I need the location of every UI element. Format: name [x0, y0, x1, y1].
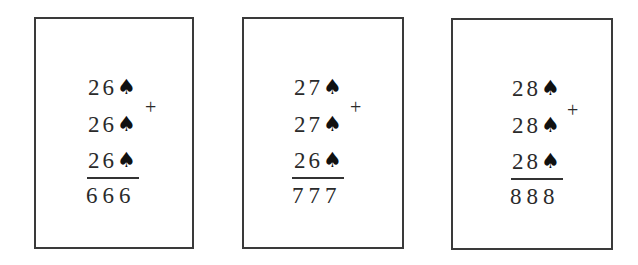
addend-digits: 28: [512, 77, 541, 100]
plus-sign: +: [567, 100, 578, 120]
puzzle-card-2: 27♠ + 27♠ 26♠ 777: [242, 17, 404, 249]
addend-digits: 26: [88, 149, 117, 172]
plus-sign: +: [350, 97, 361, 117]
sum-value: 888: [510, 185, 560, 208]
addend-digits: 28: [512, 114, 541, 137]
puzzle-card-1: 26♠ + 26♠ 26♠ 666: [34, 17, 194, 249]
addend-digits: 26: [294, 149, 323, 172]
addend-row: 28♠: [512, 77, 560, 100]
spade-icon: ♠: [323, 76, 342, 99]
puzzle-card-3: 28♠ + 28♠ 28♠ 888: [451, 18, 613, 250]
addend-row: 26♠: [294, 149, 342, 172]
addend-row: 28♠: [512, 150, 560, 173]
plus-sign: +: [145, 97, 156, 117]
addend-digits: 27: [294, 113, 323, 136]
addend-digits: 26: [88, 76, 117, 99]
sum-value: 666: [86, 184, 136, 207]
addend-row: 26♠: [88, 76, 136, 99]
spade-icon: ♠: [117, 76, 136, 99]
sum-rule: [87, 177, 139, 179]
sum-value: 777: [292, 184, 342, 207]
spade-icon: ♠: [117, 149, 136, 172]
spade-icon: ♠: [541, 150, 560, 173]
addend-row: 28♠: [512, 114, 560, 137]
addend-row: 26♠: [88, 113, 136, 136]
sum-rule: [292, 177, 344, 179]
addend-digits: 26: [88, 113, 117, 136]
addend-row: 27♠: [294, 113, 342, 136]
spade-icon: ♠: [323, 113, 342, 136]
spade-icon: ♠: [117, 113, 136, 136]
sum-rule: [511, 178, 563, 180]
addend-digits: 28: [512, 150, 541, 173]
addend-digits: 27: [294, 76, 323, 99]
spade-icon: ♠: [323, 149, 342, 172]
addend-row: 26♠: [88, 149, 136, 172]
spade-icon: ♠: [541, 114, 560, 137]
addend-row: 27♠: [294, 76, 342, 99]
spade-icon: ♠: [541, 77, 560, 100]
